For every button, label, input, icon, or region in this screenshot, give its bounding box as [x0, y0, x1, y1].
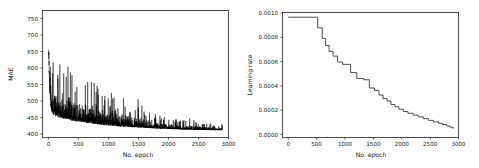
lr-xtick-2000: 2000: [395, 141, 410, 147]
mae-ytick-550: 550: [27, 82, 38, 88]
mae-xtick-2500: 2500: [191, 141, 206, 147]
lr-ytick-0: 0.0000: [258, 132, 278, 138]
lr-y-axis: 0.0000 0.0002 0.0004 0.0006 0.0008 0.001…: [258, 10, 282, 138]
mae-axes: 400 450 500 550 600 650 700 750 0: [0, 0, 240, 168]
mae-xtick-2000: 2000: [161, 141, 176, 147]
mae-xtick-3000: 3000: [221, 141, 236, 147]
lr-ytick-0008: 0.0008: [258, 34, 278, 40]
lr-ytick-0010: 0.0010: [258, 10, 278, 16]
lr-ytick-0002: 0.0002: [258, 107, 278, 113]
figure-container: 400 450 500 550 600 650 700 750 0: [0, 0, 479, 168]
lr-trace: [288, 17, 454, 128]
lr-xtick-2500: 2500: [423, 141, 438, 147]
lr-xtick-1500: 1500: [366, 141, 381, 147]
lr-xtick-1000: 1000: [338, 141, 353, 147]
mae-xlabel: No. epoch: [123, 151, 154, 159]
lr-ytick-0004: 0.0004: [258, 83, 278, 89]
mae-xtick-500: 500: [73, 141, 84, 147]
lr-x-axis: 0 500 1000 1500 2000 2500 3000: [286, 138, 466, 148]
mae-trace: [49, 49, 223, 130]
lr-xlabel: No. epoch: [356, 151, 387, 159]
lr-ylabel: Learning rate: [246, 54, 254, 95]
mae-ytick-700: 700: [27, 32, 38, 38]
mae-ylabel: MAE: [7, 67, 14, 80]
mae-ytick-750: 750: [27, 16, 38, 22]
mae-ytick-450: 450: [27, 115, 38, 121]
lr-plot-frame: [283, 13, 459, 138]
lr-axes: 0.0000 0.0002 0.0004 0.0006 0.0008 0.001…: [240, 0, 479, 168]
lr-xtick-3000: 3000: [451, 141, 466, 147]
lr-xtick-0: 0: [286, 141, 290, 147]
mae-ytick-650: 650: [27, 49, 38, 55]
mae-xtick-0: 0: [47, 141, 51, 147]
mae-xtick-1500: 1500: [131, 141, 146, 147]
lr-xtick-500: 500: [311, 141, 322, 147]
mae-xtick-1000: 1000: [101, 141, 116, 147]
mae-ytick-600: 600: [27, 65, 38, 71]
lr-ytick-0006: 0.0006: [258, 59, 278, 65]
mae-ytick-400: 400: [27, 131, 38, 137]
mae-ytick-500: 500: [27, 98, 38, 104]
chart-panel-learning-rate: 0.0000 0.0002 0.0004 0.0006 0.0008 0.001…: [240, 0, 479, 168]
chart-panel-mae: 400 450 500 550 600 650 700 750 0: [0, 0, 240, 168]
mae-y-axis: 400 450 500 550 600 650 700 750: [27, 16, 42, 138]
mae-x-axis: 0 500 1000 1500 2000 2500 3000: [47, 138, 236, 148]
